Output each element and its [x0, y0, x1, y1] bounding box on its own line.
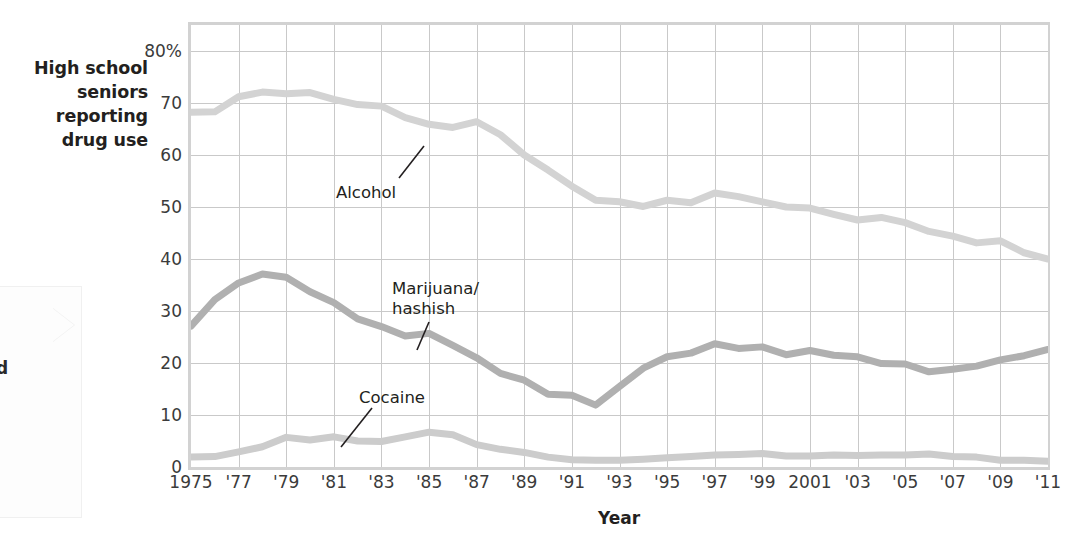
side-callout-tail-icon: [52, 308, 74, 342]
x-axis-tick-label: '95: [654, 474, 680, 491]
y-axis-tick-labels: 80%706050403020100: [130, 0, 182, 535]
y-axis-title-line-4: drug use: [0, 128, 148, 152]
series-label-marijuana: Marijuana/ hashish: [392, 279, 479, 319]
x-axis-tick-label: '77: [225, 474, 251, 491]
y-axis-tick-label: 10: [138, 407, 182, 424]
y-axis-tick-label: 40: [138, 251, 182, 268]
series-container: [191, 25, 1048, 467]
plot-area: [188, 22, 1050, 470]
series-label-alcohol: Alcohol: [336, 183, 396, 203]
y-axis-title-line-1: High school: [0, 56, 148, 80]
series-line-alcohol: [191, 92, 1048, 259]
x-axis-title: Year: [188, 508, 1050, 528]
x-axis-tick-label: '05: [892, 474, 918, 491]
x-axis-tick-label: '91: [559, 474, 585, 491]
x-axis-tick-label: '97: [702, 474, 728, 491]
x-axis-tick-label: '09: [987, 474, 1013, 491]
x-axis-tick-label: 1975: [169, 474, 212, 491]
x-axis-tick-labels: 1975'77'79'81'83'85'87'89'91'93'95'97'99…: [188, 474, 1050, 500]
chart-page: d High school seniors reporting drug use…: [0, 0, 1072, 535]
y-axis-tick-label: 30: [138, 303, 182, 320]
y-axis-tick-label: 60: [138, 147, 182, 164]
x-axis-tick-label: '89: [511, 474, 537, 491]
plot-inner: [191, 25, 1048, 467]
x-axis-tick-label: '81: [321, 474, 347, 491]
x-axis-tick-label: '11: [1035, 474, 1061, 491]
x-axis-tick-label: '87: [464, 474, 490, 491]
x-axis-tick-label: '99: [749, 474, 775, 491]
x-axis-tick-label: '03: [844, 474, 870, 491]
y-axis-tick-label: 70: [138, 95, 182, 112]
x-axis-tick-label: '07: [940, 474, 966, 491]
x-axis-tick-label: '93: [606, 474, 632, 491]
x-axis-tick-label: '85: [416, 474, 442, 491]
y-axis-title: High school seniors reporting drug use: [0, 56, 148, 152]
x-axis-tick-label: 2001: [788, 474, 831, 491]
x-axis-tick-label: '83: [368, 474, 394, 491]
y-axis-tick-label: 50: [138, 199, 182, 216]
series-label-cocaine: Cocaine: [359, 388, 425, 408]
series-line-cocaine: [191, 432, 1048, 461]
x-axis-tick-label: '79: [273, 474, 299, 491]
y-axis-title-line-2: seniors: [0, 80, 148, 104]
series-line-marijuana-hashish: [191, 274, 1048, 405]
side-callout-glyph: d: [0, 360, 8, 377]
y-axis-tick-label: 80%: [138, 43, 182, 60]
y-axis-title-line-3: reporting: [0, 104, 148, 128]
y-axis-tick-label: 20: [138, 355, 182, 372]
